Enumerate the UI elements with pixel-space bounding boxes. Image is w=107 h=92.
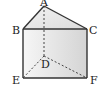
label-B: B [12, 24, 20, 37]
front-face [23, 29, 87, 78]
label-F: F [90, 74, 98, 87]
label-A: A [39, 0, 49, 9]
label-D: D [41, 58, 50, 71]
label-C: C [89, 24, 97, 37]
label-E: E [12, 74, 20, 87]
prism-figure: A B C D E F [0, 0, 107, 92]
prism-diagram: A B C D E F [0, 0, 107, 92]
